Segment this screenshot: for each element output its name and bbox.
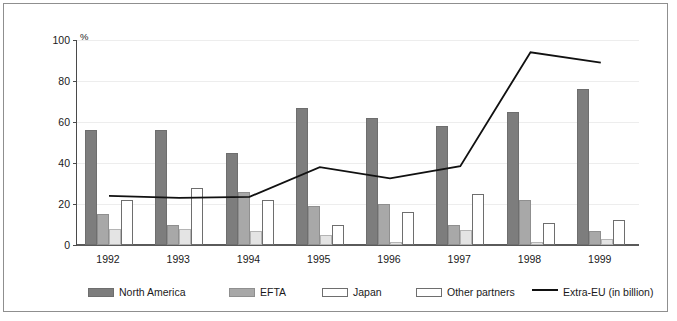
legend-item-extra-eu-in-billion-[interactable]: Extra-EU (in billion) (532, 285, 653, 299)
bar-group-1998 (505, 40, 565, 245)
x-axis-label-1999: 1999 (570, 253, 630, 265)
legend-item-north-america[interactable]: North America (88, 285, 186, 299)
bar-other-partners-1995[interactable] (332, 225, 344, 246)
bar-group-1992 (83, 40, 143, 245)
bar-group-1995 (294, 40, 354, 245)
bar-efta-1996[interactable] (378, 204, 390, 245)
bar-efta-1993[interactable] (167, 225, 179, 246)
legend-item-japan[interactable]: Japan (322, 285, 382, 299)
bar-japan-1993[interactable] (179, 229, 191, 245)
bar-japan-1994[interactable] (250, 231, 262, 245)
line-swatch-black-icon (532, 289, 558, 291)
bar-other-partners-1994[interactable] (262, 200, 274, 245)
bar-other-partners-1992[interactable] (121, 200, 133, 245)
chart-frame: % 020406080100 1992199319941995199619971… (3, 3, 668, 312)
bar-efta-1997[interactable] (448, 225, 460, 246)
bar-efta-1994[interactable] (238, 192, 250, 245)
bar-japan-1998[interactable] (531, 242, 543, 245)
bar-japan-1992[interactable] (109, 229, 121, 245)
bar-north-america-1999[interactable] (577, 89, 589, 245)
bar-swatch-white-icon (416, 288, 442, 297)
bar-efta-1995[interactable] (308, 206, 320, 245)
bar-group-1993 (153, 40, 213, 245)
bar-swatch-dark-gray-icon (88, 288, 114, 297)
bar-swatch-mid-gray-icon (229, 288, 255, 297)
y-axis-tick-60: 60 (34, 117, 70, 127)
legend-label: Japan (353, 286, 382, 298)
legend-label: Extra-EU (in billion) (563, 286, 653, 298)
y-axis-tick-80: 80 (34, 76, 70, 86)
x-axis-label-1995: 1995 (289, 253, 349, 265)
plot-area (76, 40, 638, 245)
bar-swatch-light-icon (322, 288, 348, 297)
bar-efta-1992[interactable] (97, 214, 109, 245)
bar-group-1997 (434, 40, 494, 245)
bar-japan-1995[interactable] (320, 235, 332, 245)
x-axis-label-1993: 1993 (148, 253, 208, 265)
bar-other-partners-1996[interactable] (402, 212, 414, 245)
bar-north-america-1995[interactable] (296, 108, 308, 245)
bar-north-america-1994[interactable] (226, 153, 238, 245)
bar-efta-1999[interactable] (589, 231, 601, 245)
bar-japan-1996[interactable] (390, 242, 402, 245)
x-axis-label-1998: 1998 (500, 253, 560, 265)
legend-label: Other partners (447, 286, 515, 298)
bar-other-partners-1997[interactable] (472, 194, 484, 245)
y-axis-tick-0: 0 (34, 240, 70, 250)
x-axis-label-1997: 1997 (429, 253, 489, 265)
legend-item-efta[interactable]: EFTA (229, 285, 286, 299)
y-axis-tick-40: 40 (34, 158, 70, 168)
bar-group-1999 (575, 40, 635, 245)
bar-japan-1999[interactable] (601, 239, 613, 245)
x-axis-label-1996: 1996 (359, 253, 419, 265)
bar-japan-1997[interactable] (460, 230, 472, 245)
legend-label: North America (119, 286, 186, 298)
bar-north-america-1992[interactable] (85, 130, 97, 245)
bar-north-america-1996[interactable] (366, 118, 378, 245)
bar-other-partners-1993[interactable] (191, 188, 203, 245)
legend-item-other-partners[interactable]: Other partners (416, 285, 515, 299)
bar-group-1996 (364, 40, 424, 245)
bar-north-america-1997[interactable] (436, 126, 448, 245)
y-axis-tick-100: 100 (34, 35, 70, 45)
chart-legend: North AmericaEFTAJapanOther partnersExtr… (4, 285, 669, 301)
bar-north-america-1998[interactable] (507, 112, 519, 245)
legend-label: EFTA (260, 286, 286, 298)
x-axis-label-1992: 1992 (78, 253, 138, 265)
bar-efta-1998[interactable] (519, 200, 531, 245)
chart-canvas: % 020406080100 1992199319941995199619971… (4, 4, 669, 269)
bar-group-1994 (224, 40, 284, 245)
bar-other-partners-1999[interactable] (613, 220, 625, 245)
bar-other-partners-1998[interactable] (543, 223, 555, 245)
y-axis-tick-20: 20 (34, 199, 70, 209)
x-axis-label-1994: 1994 (219, 253, 279, 265)
bar-north-america-1993[interactable] (155, 130, 167, 245)
